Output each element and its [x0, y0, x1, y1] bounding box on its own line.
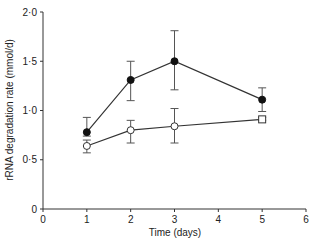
data-point-filled [127, 76, 134, 83]
data-point-open [171, 123, 178, 130]
data-point-filled [171, 58, 178, 65]
data-point-filled [259, 96, 266, 103]
x-tick-label: 6 [303, 214, 309, 225]
x-axis-title: Time (days) [149, 227, 201, 238]
data-point-open [83, 142, 90, 149]
x-tick-label: 3 [172, 214, 178, 225]
x-tick-label: 1 [84, 214, 90, 225]
x-tick-label: 2 [128, 214, 134, 225]
y-tick-label: 1·5 [23, 56, 38, 67]
plot-area [83, 31, 266, 153]
data-point-open [127, 127, 134, 134]
x-tick-label: 4 [216, 214, 222, 225]
line-chart: 012345600·51·01·52·0 Time (days) rRNA de… [0, 0, 315, 246]
y-tick-label: 0·5 [23, 154, 38, 165]
x-tick-label: 0 [40, 214, 46, 225]
data-point-filled [83, 129, 90, 136]
y-tick-label: 1·0 [23, 105, 38, 116]
data-point-open [259, 116, 266, 123]
x-tick-label: 5 [259, 214, 265, 225]
y-axis-title: rRNA degradation rate (mmol/d) [4, 39, 15, 181]
y-tick-label: 2·0 [23, 7, 38, 18]
y-tick-label: 0 [31, 204, 37, 215]
series-open [83, 109, 266, 153]
axes: 012345600·51·01·52·0 [23, 7, 310, 226]
